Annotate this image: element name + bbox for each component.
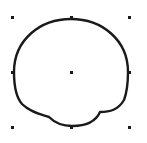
resize-handle-bottom-left[interactable] [11,126,14,129]
drawing-canvas[interactable] [0,0,147,143]
resize-handle-bottom-middle[interactable] [70,126,73,129]
resize-handle-top-left[interactable] [11,16,14,19]
resize-handle-top-right[interactable] [128,16,131,19]
center-handle[interactable] [70,71,73,74]
resize-handle-middle-left[interactable] [11,71,14,74]
resize-handle-middle-right[interactable] [128,71,131,74]
resize-handle-top-middle[interactable] [70,16,73,19]
resize-handle-bottom-right[interactable] [128,126,131,129]
shape-layer [0,0,147,143]
